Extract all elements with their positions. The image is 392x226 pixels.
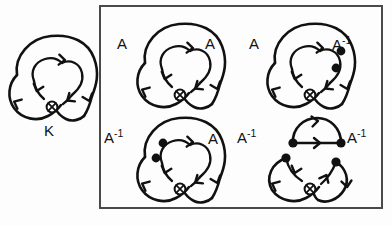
- state-label-left-exponent: -1: [247, 127, 256, 139]
- smoothing-marker-dot: [288, 138, 297, 147]
- state-label-right-exponent: -1: [342, 34, 351, 46]
- state-label-right: A: [205, 35, 215, 52]
- smoothing-marker-dot: [331, 157, 340, 166]
- smoothing-marker-dot: [281, 153, 290, 162]
- crossing-node-icon: [175, 184, 186, 195]
- state-label-left-base: A: [237, 129, 247, 146]
- state-label-left: A: [249, 35, 259, 52]
- smoothing-state-top-right: A A-1: [249, 24, 355, 109]
- crossing-node-icon: [175, 90, 186, 101]
- state-label-left: A-1: [104, 127, 124, 146]
- smoothing-marker-dot: [336, 138, 345, 147]
- state-label-left: A-1: [237, 127, 257, 146]
- state-label-right-base: A: [332, 36, 342, 53]
- knot-K-group: K: [9, 36, 97, 139]
- state-label-left-base: A: [104, 129, 114, 146]
- crossing-node-icon: [305, 90, 316, 101]
- smoothing-state-bottom-left: A-1 A: [104, 118, 225, 203]
- orientation-arrow: [160, 72, 171, 81]
- state-label-left-exponent: -1: [114, 127, 123, 139]
- knot-smoothing-figure: K: [0, 0, 392, 226]
- smoothing-marker-dot: [152, 154, 161, 163]
- crossing-node-icon: [47, 102, 58, 113]
- state-label-right: A-1: [347, 127, 367, 146]
- state-label-right-exponent: -1: [357, 127, 366, 139]
- orientation-arrow: [160, 166, 171, 175]
- state-label-right: A-1: [332, 34, 352, 53]
- orientation-arrow: [290, 72, 301, 81]
- figure-root: K: [0, 0, 392, 226]
- smoothing-state-bottom-right: A-1 A-1: [237, 116, 367, 202]
- smoothing-marker-dot: [159, 139, 168, 148]
- crossing-node-icon: [305, 184, 316, 195]
- orientation-arrow: [32, 84, 43, 93]
- state-label-left: A: [117, 35, 127, 52]
- smoothing-marker-dot: [332, 64, 341, 73]
- smoothing-state-top-left: A A: [117, 24, 225, 109]
- state-label-right: A: [208, 130, 218, 147]
- state-label-right-base: A: [347, 129, 357, 146]
- knot-label-K: K: [44, 122, 54, 139]
